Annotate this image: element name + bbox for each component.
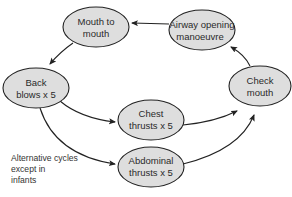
- svg-text:thrusts x 5: thrusts x 5: [129, 120, 173, 131]
- arrow-back-blows-to-chest: [60, 101, 115, 122]
- node-back-blows: Back blows x 5: [3, 68, 69, 108]
- svg-text:Check: Check: [247, 75, 274, 86]
- svg-text:thrusts x 5: thrusts x 5: [129, 167, 173, 178]
- svg-text:Back: Back: [25, 77, 46, 88]
- arrow-chest-to-check: [183, 111, 237, 125]
- svg-text:Chest: Chest: [139, 108, 164, 119]
- node-airway-opening-manoeuvre: Airway opening manoeuvre: [169, 10, 235, 50]
- svg-text:blows x 5: blows x 5: [16, 89, 56, 100]
- arrow-airway-to-mouth: [132, 23, 169, 24]
- svg-text:manoeuvre: manoeuvre: [176, 31, 224, 42]
- arrow-check-to-airway: [231, 47, 250, 66]
- node-chest-thrusts: Chest thrusts x 5: [118, 100, 184, 140]
- note-line: infants: [11, 175, 91, 186]
- svg-text:Mouth to: Mouth to: [78, 16, 115, 27]
- note-line: Alternative cycles: [11, 153, 91, 164]
- node-check-mouth: Check mouth: [229, 66, 291, 106]
- arrow-abdominal-to-check: [183, 115, 254, 164]
- alternative-cycles-note: Alternative cycles except in infants: [11, 153, 91, 186]
- note-line: except in: [11, 164, 91, 175]
- svg-text:mouth: mouth: [247, 87, 273, 98]
- node-abdominal-thrusts: Abdominal thrusts x 5: [118, 147, 184, 187]
- node-mouth-to-mouth: Mouth to mouth: [63, 7, 129, 47]
- arrow-mouth-to-back-blows: [50, 43, 73, 64]
- svg-text:Abdominal: Abdominal: [129, 155, 174, 166]
- svg-text:Airway opening: Airway opening: [170, 19, 235, 30]
- svg-text:mouth: mouth: [83, 28, 109, 39]
